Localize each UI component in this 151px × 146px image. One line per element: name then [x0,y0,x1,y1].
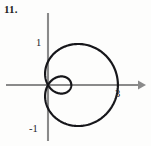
x-axis-arrow-icon [138,81,146,90]
polar-curve-figure: 11. 1 -1 3 [0,0,151,146]
tick-label-y-positive-one: 1 [36,37,41,48]
tick-label-x-three: 3 [115,88,120,99]
polar-plot: 1 -1 3 [0,0,151,146]
tick-label-y-negative-one: -1 [29,123,38,134]
